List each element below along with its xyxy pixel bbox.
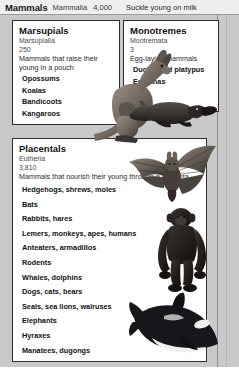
placentals-species-count: 3,810 <box>19 164 201 173</box>
group-card-marsupials: Marsupials Marsupialia 250 Mammals that … <box>12 20 120 125</box>
group-card-monotremes: Monotremes Montremata 3 Egg-laying mamma… <box>123 20 219 112</box>
header-species-count: 4,000 <box>93 3 112 12</box>
monotremes-description: Egg-laying mammals <box>130 54 213 63</box>
marsupials-species-count: 250 <box>19 46 114 55</box>
list-item: Dogs, cats, bears <box>19 285 201 300</box>
monotremes-example-list: Duck-billed platypus Echidnas <box>130 64 213 87</box>
monotremes-scientific-name: Montremata <box>130 37 213 46</box>
marsupials-scientific-name: Marsupialia <box>19 37 114 46</box>
list-item: Lemers, monkeys, apes, humans <box>19 227 201 242</box>
placentals-title: Placentals <box>19 143 201 154</box>
vertical-divider-inner <box>226 15 227 367</box>
list-item: Echidnas <box>130 76 213 88</box>
monotremes-species-count: 3 <box>130 46 213 55</box>
list-item: Hedgehogs, shrews, moles <box>19 183 201 198</box>
list-item: Horses, tapirs, rhinoceroses <box>19 358 201 362</box>
header-title: Mammals <box>5 2 48 13</box>
list-item: Whales, dolphins <box>19 271 201 286</box>
list-item: Opossums <box>19 73 114 85</box>
diagram-header: Mammals Mammalia 4,000 Suckle young on m… <box>0 0 239 15</box>
marsupials-description: Mammals that raise their young in a pouc… <box>19 54 114 72</box>
diagram-root: Mammals Mammalia 4,000 Suckle young on m… <box>0 0 239 379</box>
list-item: Rabbits, hares <box>19 212 201 227</box>
placentals-example-list: Hedgehogs, shrews, moles Bats Rabbits, h… <box>19 183 201 362</box>
placentals-scientific-name: Eutheria <box>19 155 201 164</box>
monotremes-title: Monotremes <box>130 25 213 36</box>
header-scientific-name: Mammalia <box>53 3 88 12</box>
list-item: Bats <box>19 198 201 213</box>
list-item: Koalas <box>19 85 114 97</box>
list-item: Anteaters, armadillos <box>19 241 201 256</box>
list-item: Manatees, dugongs <box>19 344 201 359</box>
list-item: Bandicoots <box>19 96 114 108</box>
list-item: Kangaroos <box>19 108 114 120</box>
marsupials-example-list: Opossums Koalas Bandicoots Kangaroos <box>19 73 114 119</box>
header-trait: Suckle young on milk <box>126 3 197 12</box>
list-item: Rodents <box>19 256 201 271</box>
marsupials-title: Marsupials <box>19 25 114 36</box>
list-item: Duck-billed platypus <box>130 64 213 76</box>
footer-strip <box>0 367 239 379</box>
list-item: Elephants <box>19 314 201 329</box>
group-card-placentals: Placentals Eutheria 3,810 Mammals that n… <box>12 138 207 362</box>
list-item: Seals, sea lions, walruses <box>19 300 201 315</box>
placentals-description: Mammals that nourish their young through… <box>19 172 201 181</box>
list-item: Hyraxes <box>19 329 201 344</box>
